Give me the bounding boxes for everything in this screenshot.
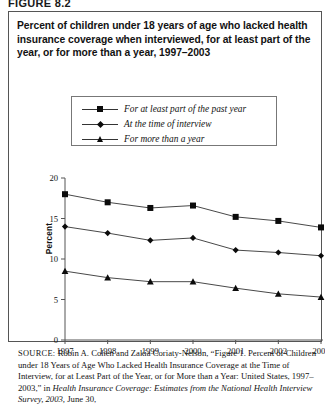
legend-item-at-time-of-interview: At the time of interview — [72, 116, 276, 132]
legend-item-at-least-part-of-past-year: For at least part of the past year — [72, 101, 276, 117]
figure-frame: Percent of children under 18 years of ag… — [8, 11, 322, 342]
figure-page: FIGURE 8.2 Percent of children under 18 … — [0, 0, 332, 416]
data-point-marker — [275, 218, 281, 224]
figure-number-label: FIGURE 8.2 — [8, 0, 71, 9]
data-point-marker — [190, 203, 196, 209]
chart-title: Percent of children under 18 years of ag… — [17, 19, 313, 60]
plot-area: Percent 05101520199719981999200020012002… — [25, 160, 325, 355]
data-point-marker — [147, 205, 153, 211]
legend-item-label: At the time of interview — [124, 119, 211, 129]
data-point-marker — [318, 224, 324, 230]
y-axis-tick-label: 0 — [54, 335, 58, 345]
square-marker-icon — [82, 102, 118, 116]
legend-item-more-than-a-year: For more than a year — [72, 131, 276, 147]
data-point-marker — [62, 224, 68, 230]
data-point-marker — [318, 253, 324, 259]
data-point-marker — [233, 247, 239, 253]
data-point-marker — [105, 230, 111, 236]
data-point-marker — [62, 191, 68, 197]
y-axis-tick-label: 10 — [49, 254, 58, 264]
data-point-marker — [147, 237, 153, 243]
data-point-marker — [105, 199, 111, 205]
data-point-marker — [190, 235, 196, 241]
source-note: SOURCE: Robin A. Cohen and Zakia Coriaty… — [18, 348, 318, 406]
y-axis-tick-label: 5 — [54, 295, 58, 305]
legend-item-label: For at least part of the past year — [124, 104, 246, 114]
source-prefix: SOURCE: — [18, 349, 55, 358]
chart-legend: For at least part of the past year At th… — [71, 96, 277, 146]
y-axis-tick-label: 15 — [49, 214, 58, 224]
triangle-marker-icon — [82, 132, 118, 146]
source-italic-title: Health Insurance Coverage: Estimates fro… — [18, 383, 312, 405]
line-chart-svg: 051015201997199819992000200120022003 — [25, 160, 325, 355]
series-line — [65, 227, 321, 256]
series-line — [65, 194, 321, 227]
diamond-marker-icon — [82, 117, 118, 131]
legend-item-label: For more than a year — [124, 134, 204, 144]
data-point-marker — [62, 268, 69, 274]
source-text-part2: June 30, — [65, 394, 96, 404]
y-axis-tick-label: 20 — [49, 173, 58, 183]
data-point-marker — [233, 214, 239, 220]
data-point-marker — [275, 249, 281, 255]
